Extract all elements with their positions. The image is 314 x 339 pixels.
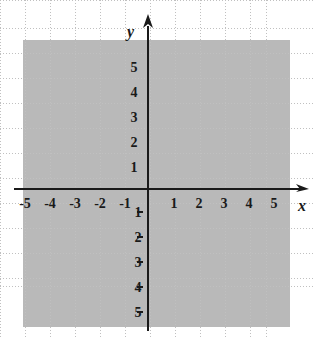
y-tick-label: 5 [126, 61, 142, 75]
x-tick-label: 5 [265, 197, 283, 211]
y-axis-line [147, 26, 149, 331]
gridline-vertical [100, 0, 101, 339]
x-tick-label: -3 [64, 197, 86, 211]
gridline-vertical [50, 0, 51, 339]
gridline-vertical [150, 0, 151, 339]
y-tick-label: 4 [130, 281, 146, 295]
gridline-horizontal [0, 128, 314, 129]
gridline-vertical [225, 0, 226, 339]
arrow-right-icon [296, 181, 310, 197]
x-tick-label: 4 [240, 197, 258, 211]
y-tick-label: 4 [126, 86, 142, 100]
x-tick-label: 1 [165, 197, 183, 211]
x-axis-label: x [298, 198, 306, 214]
x-tick-label: 2 [190, 197, 208, 211]
gridline-horizontal [0, 28, 314, 29]
gridline-horizontal [0, 78, 314, 79]
gridline-horizontal [0, 278, 314, 279]
arrow-up-icon [140, 14, 156, 30]
gridline-horizontal [0, 178, 314, 179]
gridline-vertical [200, 0, 201, 339]
y-axis-label: y [127, 24, 134, 40]
gridline-horizontal [0, 53, 314, 54]
gridline-horizontal [0, 103, 314, 104]
x-tick-label: 3 [215, 197, 233, 211]
y-tick-label: 1 [130, 206, 146, 220]
y-tick-label: 3 [130, 256, 146, 270]
gridline-horizontal [0, 153, 314, 154]
gridline-vertical [266, 0, 267, 339]
y-tick-label: 3 [126, 111, 142, 125]
gridline-horizontal [0, 253, 314, 254]
x-axis-line [14, 188, 304, 190]
x-tick-label: -2 [89, 197, 111, 211]
gridline-horizontal [0, 286, 314, 287]
gridline-vertical [75, 0, 76, 339]
gridline-horizontal [0, 0, 314, 1]
gridline-horizontal [0, 228, 314, 229]
y-tick-label: 5 [130, 306, 146, 320]
gridline-vertical [250, 0, 251, 339]
gridline-vertical [175, 0, 176, 339]
y-tick-label: 2 [126, 136, 142, 150]
y-tick-label: 2 [130, 231, 146, 245]
coordinate-plane: y x -5 -4 -3 -2 -1 1 2 3 4 5 5 4 3 2 1 1… [0, 0, 314, 339]
y-tick-label: 1 [126, 161, 142, 175]
gridline-vertical [25, 0, 26, 339]
gridline-vertical [0, 0, 1, 339]
x-tick-label: -5 [14, 197, 36, 211]
x-tick-label: -4 [39, 197, 61, 211]
